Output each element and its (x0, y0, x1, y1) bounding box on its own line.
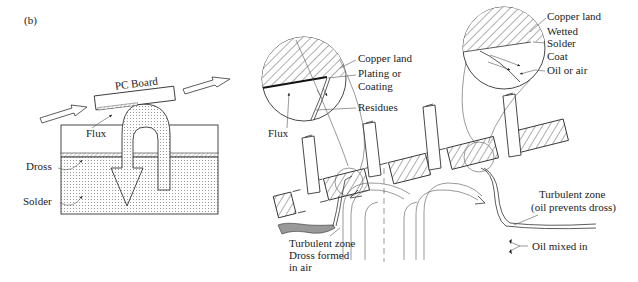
oil-mixed-in-label: Oil mixed in (532, 240, 588, 252)
board-segment (273, 192, 296, 218)
oil-zone-label-line1: Turbulent zone (539, 188, 606, 200)
wave-soldering-diagram: (b) PC Board Flux Dross Solder (0, 0, 638, 282)
board-direction-arrow-in (40, 105, 87, 123)
plating-label-line1: Plating or (358, 67, 401, 79)
solder-coat-label-line2: Solder (547, 37, 576, 49)
tank-upper-area (61, 125, 218, 154)
left-copper-land-label: Copper land (358, 52, 413, 64)
solder-bath (61, 157, 218, 214)
solder-label: Solder (23, 195, 52, 207)
oil-zone-label-line2: (oil prevents dross) (531, 201, 616, 214)
component-lead (503, 94, 521, 157)
board-segment (388, 153, 430, 184)
dross-turbulent-zone (278, 223, 335, 234)
component-lead (302, 136, 320, 194)
plating-label-line2: Coating (358, 80, 393, 92)
oil-mixed-in-icon (509, 239, 528, 254)
wetted-label: Wetted (547, 25, 578, 37)
dross-zone-label-line2: Dross formed (289, 249, 350, 261)
flux-label: Flux (86, 127, 107, 139)
dual-wave-cross-section: Copper land Plating or Coating Residues … (262, 0, 616, 273)
wave-right-outer (424, 183, 482, 260)
panel-label: (b) (24, 14, 37, 27)
board-direction-arrow-out (183, 77, 230, 94)
left-flux-label: Flux (268, 127, 289, 139)
right-copper-land-label: Copper land (547, 10, 602, 22)
dross-zone-label-line3: in air (289, 261, 312, 273)
oil-or-air-label: Oil or air (547, 64, 588, 76)
flow-arrowhead (475, 196, 485, 204)
dross-label: Dross (26, 160, 52, 172)
residues-label: Residues (358, 101, 398, 113)
board-segment (515, 119, 569, 152)
component-lead (363, 122, 381, 177)
dross-layer (61, 153, 218, 157)
coat-label: Coat (547, 50, 568, 62)
board-segment (447, 136, 499, 169)
dross-zone-label-line1: Turbulent zone (289, 237, 356, 249)
solder-wave-tank: PC Board Flux Dross Solder (23, 75, 230, 214)
